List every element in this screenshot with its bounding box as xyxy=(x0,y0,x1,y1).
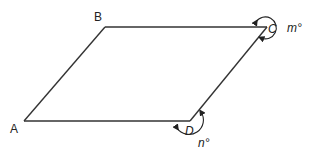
parallelogram xyxy=(24,27,267,121)
parallelogram-diagram: A B C D m° n° xyxy=(0,0,313,150)
edge-cd xyxy=(190,27,267,121)
vertex-label-a: A xyxy=(10,122,18,136)
vertex-label-b: B xyxy=(94,10,102,24)
angle-label-n: n° xyxy=(198,136,210,150)
angle-label-m: m° xyxy=(287,21,302,35)
edge-ab xyxy=(24,27,105,121)
vertex-label-d: D xyxy=(185,124,194,138)
vertex-label-c: C xyxy=(268,22,277,36)
